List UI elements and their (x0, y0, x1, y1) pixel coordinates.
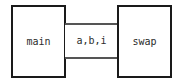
module-coupling-diagram: main a,b,i swap (0, 0, 182, 83)
coupling-parameter-label: a,b,i (65, 25, 118, 57)
coupling-connector-bottom-line (65, 57, 118, 59)
module-box-swap[interactable]: swap (117, 5, 172, 78)
module-box-main[interactable]: main (11, 5, 66, 78)
coupling-parameter-text: a,b,i (76, 36, 106, 46)
module-label-swap: swap (132, 37, 156, 47)
module-label-main: main (26, 37, 50, 47)
